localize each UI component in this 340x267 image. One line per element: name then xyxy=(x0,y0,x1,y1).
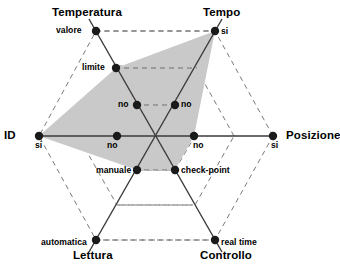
dot-tempo-no[interactable] xyxy=(171,101,179,109)
axis-title-temperatura: Temperatura xyxy=(52,6,122,18)
dot-controllo-real-time[interactable] xyxy=(211,236,219,244)
point-label-controllo-check-point: check-point xyxy=(181,165,230,175)
point-label-id-si: si xyxy=(35,140,42,150)
dot-temperatura-no[interactable] xyxy=(133,101,141,109)
point-label-posizione-si: si xyxy=(271,140,278,150)
dot-lettura-manuale[interactable] xyxy=(133,166,141,174)
point-label-controllo-real-time: real time xyxy=(221,237,257,247)
point-label-posizione-no: no xyxy=(193,140,204,150)
point-label-tempo-si: si xyxy=(221,26,228,36)
dot-controllo-check-point[interactable] xyxy=(171,166,179,174)
radar-chart-container: Temperatura Tempo Posizione Controllo Le… xyxy=(0,0,340,267)
dot-posizione-no[interactable] xyxy=(190,132,198,140)
point-label-tempo-no: no xyxy=(181,99,192,109)
axis-title-tempo: Tempo xyxy=(203,6,240,18)
dot-temperatura-valore[interactable] xyxy=(92,27,100,35)
point-label-lettura-manuale: manuale xyxy=(96,165,131,175)
dot-temperatura-limite[interactable] xyxy=(112,64,120,72)
dot-id-si[interactable] xyxy=(35,132,43,140)
dot-id-no[interactable] xyxy=(113,132,121,140)
dot-tempo-si[interactable] xyxy=(211,27,219,35)
axis-title-controllo: Controllo xyxy=(200,249,252,261)
dot-lettura-automatica[interactable] xyxy=(92,236,100,244)
dot-posizione-si[interactable] xyxy=(269,132,277,140)
point-label-temperatura-valore: valore xyxy=(56,25,82,35)
point-label-temperatura-no: no xyxy=(118,99,129,109)
point-label-temperatura-limite: limite xyxy=(82,62,105,72)
axis-title-id: ID xyxy=(4,129,16,141)
axis-title-lettura: Lettura xyxy=(73,249,113,261)
point-label-id-no: no xyxy=(107,140,118,150)
point-label-lettura-automatica: automatica xyxy=(41,237,87,247)
axis-title-posizione: Posizione xyxy=(286,129,340,141)
